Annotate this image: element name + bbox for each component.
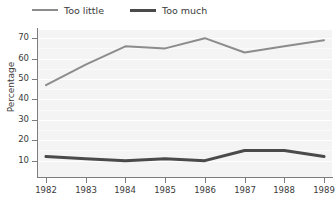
- x-axis-tick-label: 1986: [188, 186, 222, 195]
- plot-area: Percentage 10203040506070198219831984198…: [0, 0, 335, 208]
- x-axis-tick-label: 1989: [307, 186, 335, 195]
- series-line-too-much: [46, 150, 324, 160]
- series-line-too-little: [46, 38, 324, 85]
- y-axis-tick-label: 20: [18, 135, 29, 144]
- y-axis-tick-label: 70: [18, 33, 29, 42]
- y-axis-tick-label: 50: [18, 74, 29, 83]
- x-axis-tick-label: 1988: [267, 186, 301, 195]
- x-axis-tick-label: 1987: [228, 186, 262, 195]
- line-chart: Too little Too much Percentage 102030405…: [0, 0, 335, 208]
- y-axis-tick-label: 10: [18, 156, 29, 165]
- x-axis-tick-label: 1985: [148, 186, 182, 195]
- y-axis-tick-label: 40: [18, 94, 29, 103]
- y-axis-tick-label: 30: [18, 115, 29, 124]
- y-axis-tick-label: 60: [18, 54, 29, 63]
- x-axis-tick-label: 1984: [108, 186, 142, 195]
- x-axis-tick-label: 1982: [29, 186, 63, 195]
- series-layer: [0, 0, 335, 208]
- x-axis-tick-label: 1983: [69, 186, 103, 195]
